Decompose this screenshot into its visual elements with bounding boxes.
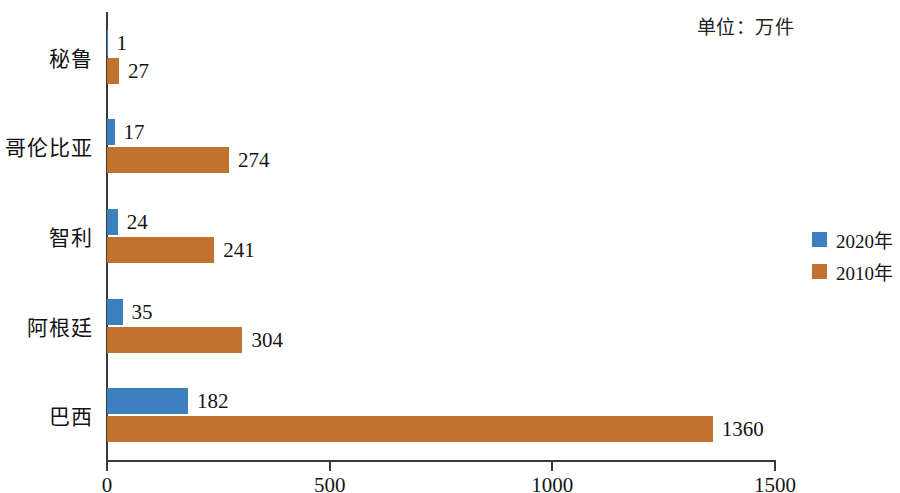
category-label: 巴西: [49, 400, 93, 430]
bar-group: 阿根廷35304: [107, 299, 775, 353]
bar-2010年-哥伦比亚[interactable]: [107, 147, 229, 173]
bar-2020年-哥伦比亚[interactable]: [107, 119, 115, 145]
bar-value-label: 241: [223, 238, 255, 263]
bar-value-label: 1: [116, 30, 127, 55]
bar-row: 24: [107, 209, 775, 235]
chart-legend: 2020年2010年: [812, 227, 893, 291]
category-label: 阿根廷: [27, 311, 93, 341]
legend-label: 2010年: [836, 258, 893, 285]
bar-row: 274: [107, 147, 775, 173]
bar-row: 27: [107, 58, 775, 84]
plot-area: 050010001500 秘鲁127哥伦比亚17274智利24241阿根廷353…: [107, 12, 775, 460]
x-tick-0: [106, 460, 108, 471]
bar-value-label: 1360: [722, 417, 764, 442]
bar-2010年-智利[interactable]: [107, 237, 214, 263]
bar-value-label: 35: [132, 299, 153, 324]
bar-group: 秘鲁127: [107, 30, 775, 84]
bar-2010年-秘鲁[interactable]: [107, 58, 119, 84]
bar-row: 182: [107, 388, 775, 414]
bar-value-label: 27: [128, 58, 149, 83]
x-tick-label-500: 500: [314, 473, 346, 493]
bar-2020年-阿根廷[interactable]: [107, 299, 123, 325]
bar-row: 35: [107, 299, 775, 325]
legend-label: 2020年: [836, 226, 893, 253]
x-tick-1000: [551, 460, 553, 471]
x-tick-label-1500: 1500: [754, 473, 796, 493]
bar-row: 304: [107, 327, 775, 353]
legend-swatch-2020: [812, 232, 827, 247]
bar-row: 241: [107, 237, 775, 263]
category-label: 秘鲁: [49, 42, 93, 72]
bar-row: 1: [107, 30, 775, 56]
x-tick-1500: [774, 460, 776, 471]
bar-2010年-阿根廷[interactable]: [107, 327, 242, 353]
x-tick-label-1000: 1000: [531, 473, 573, 493]
bar-2020年-巴西[interactable]: [107, 388, 188, 414]
bar-value-label: 274: [238, 148, 270, 173]
category-label: 哥伦比亚: [5, 131, 93, 161]
bar-value-label: 182: [197, 389, 229, 414]
bar-chart: 单位：万件 050010001500 秘鲁127哥伦比亚17274智利24241…: [0, 0, 900, 493]
bar-value-label: 17: [124, 120, 145, 145]
x-tick-label-0: 0: [102, 473, 113, 493]
bar-value-label: 304: [251, 327, 283, 352]
x-tick-500: [329, 460, 331, 471]
bar-group: 哥伦比亚17274: [107, 119, 775, 173]
bar-2010年-巴西[interactable]: [107, 416, 713, 442]
bar-value-label: 24: [127, 210, 148, 235]
bar-row: 17: [107, 119, 775, 145]
x-axis-line: [106, 460, 776, 462]
legend-swatch-2010: [812, 264, 827, 279]
bar-row: 1360: [107, 416, 775, 442]
bar-group: 巴西1821360: [107, 388, 775, 442]
category-label: 智利: [49, 221, 93, 251]
legend-item[interactable]: 2020年: [812, 227, 893, 252]
bar-2020年-智利[interactable]: [107, 209, 118, 235]
bar-group: 智利24241: [107, 209, 775, 263]
legend-item[interactable]: 2010年: [812, 259, 893, 284]
